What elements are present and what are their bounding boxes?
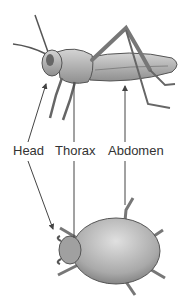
label-head: Head [13,144,44,158]
grasshopper [13,15,177,120]
label-thorax: Thorax [55,144,95,158]
label-abdomen: Abdomen [108,144,164,158]
pointer-lines [28,82,125,238]
